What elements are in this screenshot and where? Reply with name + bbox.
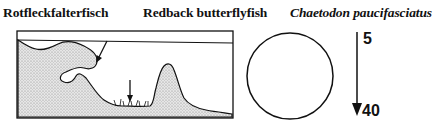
depth-max-label: 40: [362, 102, 380, 120]
reef-diagram: [17, 31, 233, 118]
depth-range-arrow-icon: [352, 32, 362, 116]
size-circle: [247, 33, 333, 119]
depth-min-label: 5: [363, 30, 372, 48]
